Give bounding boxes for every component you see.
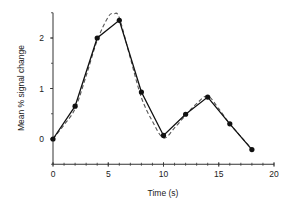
data-point-marker bbox=[95, 35, 100, 40]
x-tick-label: 15 bbox=[214, 169, 224, 179]
data-point-marker bbox=[139, 89, 144, 94]
y-tick-label: 1 bbox=[39, 84, 44, 94]
axes: 01205101520 bbox=[39, 13, 279, 180]
data-point-marker bbox=[117, 18, 122, 23]
data-point-marker bbox=[161, 133, 166, 138]
data-point-marker bbox=[205, 94, 210, 99]
data-point-marker bbox=[183, 112, 188, 117]
x-tick-label: 20 bbox=[269, 169, 279, 179]
x-axis-label: Time (s) bbox=[148, 188, 179, 198]
data-point-marker bbox=[249, 147, 254, 152]
data-point-marker bbox=[73, 104, 78, 109]
line-chart: 01205101520 Time (s) Mean % signal chang… bbox=[0, 0, 294, 206]
measured-line-path bbox=[53, 20, 252, 149]
data-point-marker bbox=[227, 121, 232, 126]
measured-line bbox=[50, 18, 254, 152]
y-tick-label: 0 bbox=[39, 134, 44, 144]
x-tick-label: 10 bbox=[159, 169, 169, 179]
data-point-marker bbox=[50, 136, 55, 141]
y-axis-label: Mean % signal change bbox=[16, 45, 26, 131]
y-tick-label: 2 bbox=[39, 33, 44, 43]
x-tick-label: 5 bbox=[106, 169, 111, 179]
x-tick-label: 0 bbox=[51, 169, 56, 179]
